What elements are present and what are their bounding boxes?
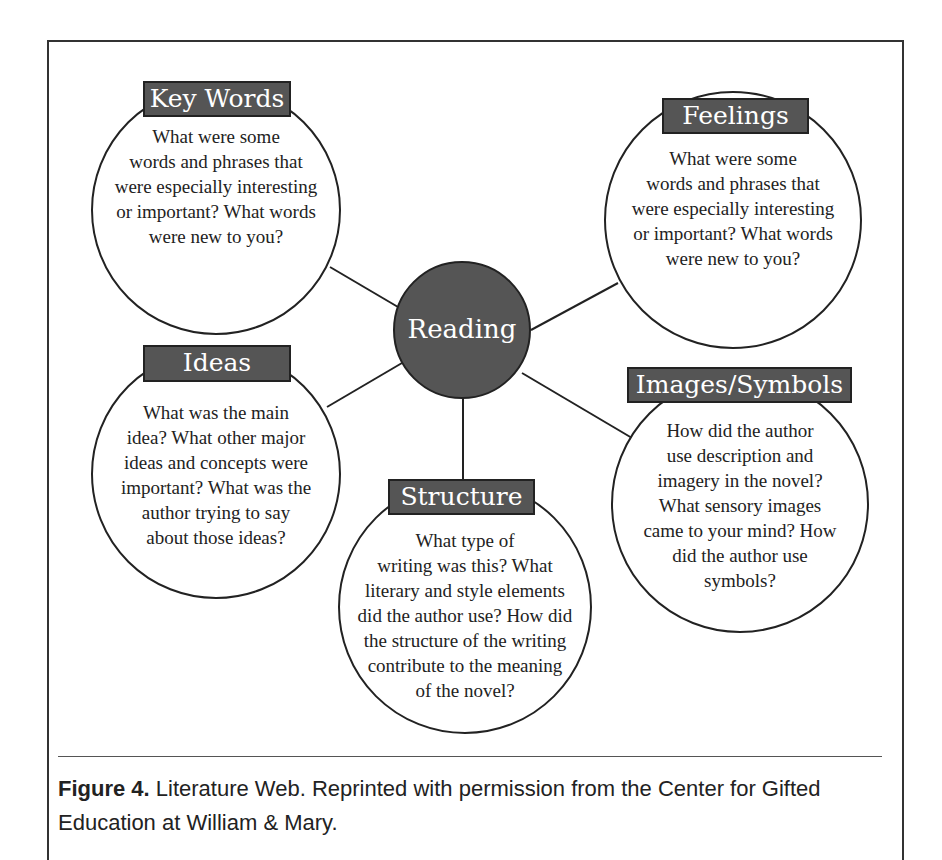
node-text-images-symbols: How did the author use description and i… [620,418,860,593]
node-text-key-words: What were some words and phrases that we… [96,124,336,249]
node-text-ideas: What was the main idea? What other major… [96,400,336,550]
caption-text: Literature Web. Reprinted with permissio… [58,776,821,835]
caption-divider [58,756,882,757]
figure-number: Figure 4. [58,776,150,801]
node-text-structure: What type of writing was this? What lite… [345,528,585,703]
label-structure: Structure [388,479,535,515]
figure-caption: Figure 4. Literature Web. Reprinted with… [58,772,898,840]
connector-feelings [531,283,618,330]
label-ideas: Ideas [143,345,291,382]
label-images-symbols: Images/Symbols [627,367,852,403]
label-feelings: Feelings [662,98,809,134]
connector-key-words [330,267,398,307]
connector-images-symbols [522,373,632,438]
label-key-words: Key Words [143,81,291,117]
node-text-feelings: What were some words and phrases that we… [613,146,853,271]
center-label-reading: Reading [394,312,530,346]
connector-ideas [327,363,402,407]
